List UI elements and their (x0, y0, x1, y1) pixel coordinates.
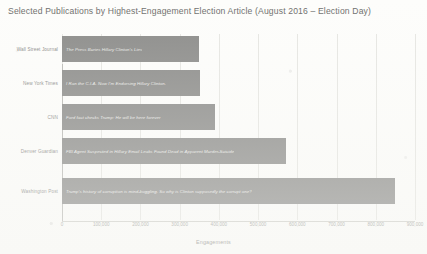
table-row: Washington PostTrump's history of corrup… (0, 178, 427, 204)
x-tick-label: 500,000 (250, 222, 267, 227)
x-axis-label: Engagements (0, 239, 427, 245)
bar-headline-label: I Ran the C.I.A. Now I'm Endorsing Hilla… (62, 81, 166, 86)
bar-category-label: Wall Street Journal (0, 47, 62, 52)
table-row: Denver GuardianFBI Agent Suspected in Hi… (0, 138, 427, 164)
x-tick-label: 800,000 (367, 222, 384, 227)
bar[interactable]: Trump's history of corruption is mind-bo… (62, 178, 395, 204)
bar-headline-label: Ford fact checks Trump: He will be here … (62, 115, 161, 120)
chart-title: Selected Publications by Highest-Engagem… (8, 6, 371, 16)
bar[interactable]: FBI Agent Suspected in Hillary Email Lea… (62, 138, 286, 164)
x-tick-label: 700,000 (328, 222, 345, 227)
bar-category-label: Washington Post (0, 189, 62, 194)
x-tick-label: 200,000 (132, 222, 149, 227)
bar-headline-label: The Press Buries Hillary Clinton's Lies (62, 47, 142, 52)
bar-headline-label: Trump's history of corruption is mind-bo… (62, 189, 252, 194)
table-row: Wall Street JournalThe Press Buries Hill… (0, 36, 427, 62)
bar[interactable]: I Ran the C.I.A. Now I'm Endorsing Hilla… (62, 70, 200, 96)
chart-plot-wrapper: Wall Street JournalThe Press Buries Hill… (0, 30, 427, 226)
x-tick-label: 0 (61, 222, 64, 227)
bar[interactable]: The Press Buries Hillary Clinton's Lies (62, 36, 199, 62)
bar[interactable]: Ford fact checks Trump: He will be here … (62, 104, 215, 130)
bar-category-label: New York Times (0, 81, 62, 86)
x-tick-label: 400,000 (211, 222, 228, 227)
x-tick-label: 100,000 (93, 222, 110, 227)
bar-category-label: Denver Guardian (0, 149, 62, 154)
table-row: New York TimesI Ran the C.I.A. Now I'm E… (0, 70, 427, 96)
x-tick-label: 900,000 (407, 222, 424, 227)
bar-category-label: CNN (0, 115, 62, 120)
x-tick-label: 300,000 (171, 222, 188, 227)
x-axis-tick-labels: 0100,000200,000300,000400,000500,000600,… (62, 222, 415, 232)
x-tick-label: 600,000 (289, 222, 306, 227)
table-row: CNNFord fact checks Trump: He will be he… (0, 104, 427, 130)
bar-headline-label: FBI Agent Suspected in Hillary Email Lea… (62, 149, 234, 154)
